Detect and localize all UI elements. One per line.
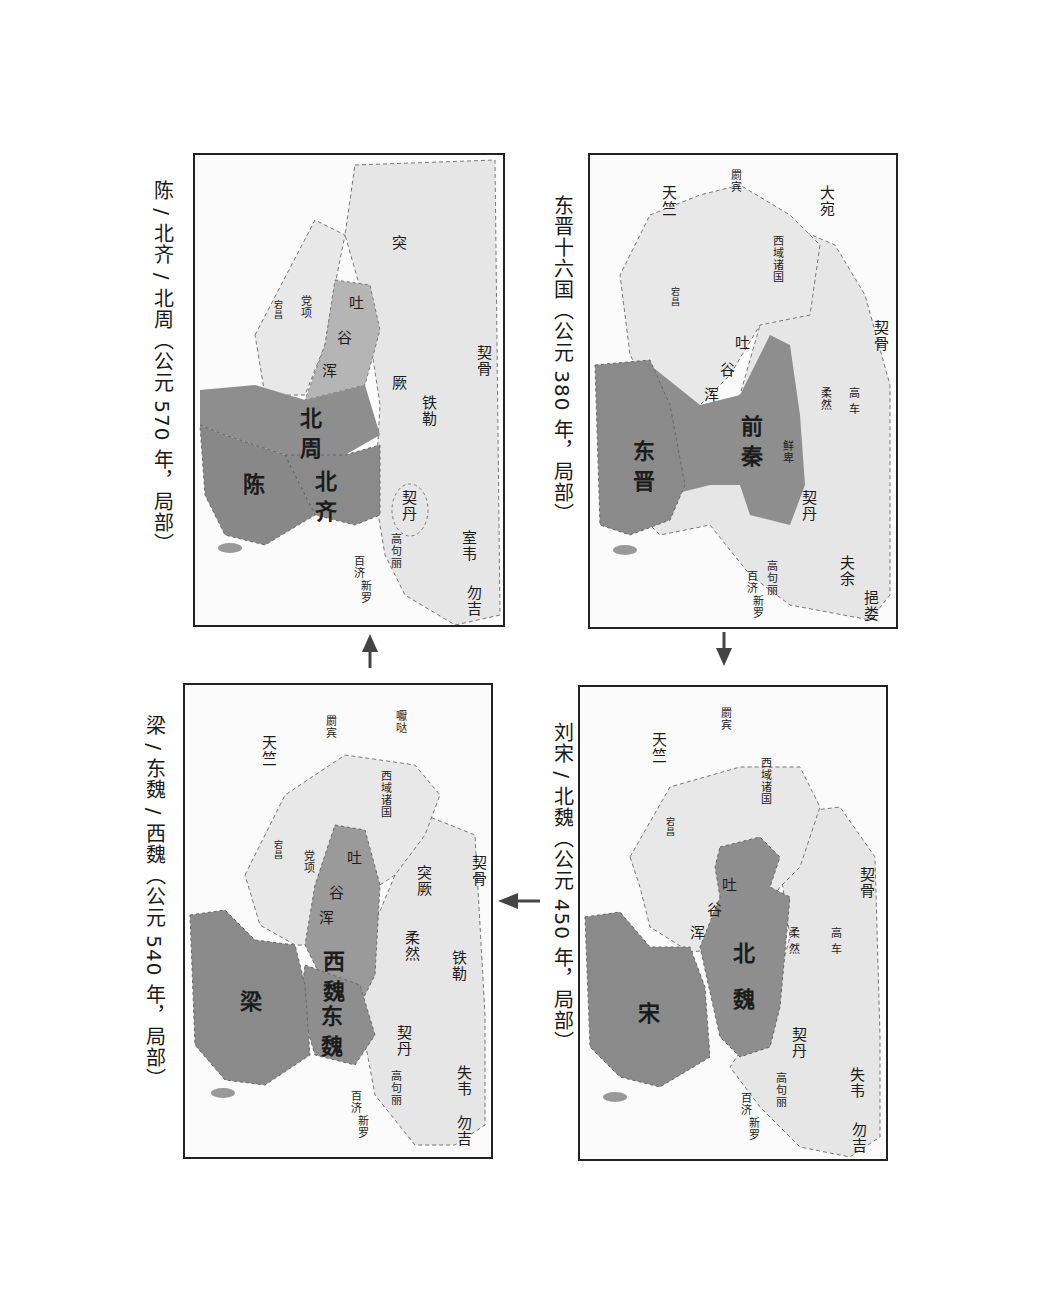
- label-rouran: 柔 然: [788, 927, 799, 956]
- label-qidan: 契丹: [800, 490, 815, 522]
- label-dangxiang: 党项: [300, 295, 311, 319]
- label-baiji: 百济: [350, 1090, 361, 1114]
- label-wuji: 勿吉: [850, 1122, 865, 1154]
- label-dawan: 大宛: [818, 185, 833, 217]
- label-tiele: 铁勒: [420, 395, 435, 427]
- label-tuyuhun-3: 浑: [317, 910, 332, 926]
- label-tianzhu: 天竺: [650, 732, 665, 764]
- label-qigu: 契骨: [872, 320, 887, 352]
- label-qigu: 契骨: [475, 345, 490, 377]
- label-tuyuhun-1: 吐: [720, 877, 735, 893]
- label-dangchang: 宕昌: [273, 840, 282, 860]
- label-tianzhu: 天竺: [660, 185, 675, 217]
- caption-570: 陈 / 北齐 / 北周（公元 570 年，局部）: [148, 180, 177, 554]
- label-qigu: 契骨: [470, 855, 485, 887]
- map-panel-540: 嚈哒 罽宾 天竺 西域诸国 党项 宕昌 吐 谷 浑 契骨 突厥 铁勒 柔然 西魏…: [183, 683, 493, 1159]
- map-shapes-450: [580, 687, 886, 1159]
- label-wuji: 勿吉: [455, 1115, 470, 1147]
- label-tujue: 突厥: [415, 865, 430, 897]
- label-jibin: 罽宾: [325, 715, 336, 739]
- label-tuyuhun-1: 吐: [733, 335, 748, 351]
- label-qianqin: 前秦: [738, 415, 760, 475]
- label-beiqi: 北齐: [312, 470, 334, 530]
- caption-540: 梁 / 东魏 / 西魏（公元 540 年，局部）: [140, 715, 169, 1089]
- label-qigu: 契骨: [858, 867, 873, 899]
- label-xiyu: 西域诸国: [760, 757, 771, 805]
- label-song: 宋: [635, 1002, 657, 1032]
- map-shapes-540: [185, 685, 491, 1157]
- island-taiwan: [218, 543, 242, 553]
- arrow-left-icon: [496, 891, 542, 911]
- label-shiwei: 失韦: [455, 1065, 470, 1097]
- label-tiele: 铁勒: [450, 950, 465, 982]
- label-gaogouli: 高句丽: [766, 560, 777, 596]
- label-tianzhu: 天竺: [260, 735, 275, 767]
- label-xinluo: 新罗: [748, 1117, 759, 1141]
- label-shiwei: 失韦: [848, 1067, 863, 1099]
- label-tuyuhun-2: 谷: [705, 902, 720, 918]
- label-shiwei: 室韦: [460, 530, 475, 562]
- arrow-up-icon: [360, 632, 380, 668]
- label-xinluo: 新罗: [752, 595, 763, 619]
- label-fuyu: 夫余: [838, 555, 853, 587]
- label-tuyuhun-2: 谷: [327, 885, 342, 901]
- island-taiwan: [603, 1092, 627, 1102]
- label-rouran: 柔然: [820, 387, 831, 411]
- label-yada: 嚈哒: [395, 710, 406, 734]
- label-yilou: 挹娄: [862, 590, 877, 622]
- island-taiwan: [613, 545, 637, 555]
- label-gaoche: 高 车: [830, 927, 841, 956]
- label-tuyuhun-1: 吐: [345, 850, 360, 866]
- label-jibin: 罽宾: [720, 707, 731, 731]
- label-dangchang: 宕昌: [665, 817, 674, 837]
- label-liang: 梁: [237, 990, 259, 1020]
- label-beiwei: 北 魏: [730, 942, 752, 1018]
- label-qidan: 契丹: [790, 1027, 805, 1059]
- label-tujue-1: 突 厥: [390, 235, 405, 450]
- label-xinluo: 新罗: [357, 1115, 368, 1139]
- label-xiyu: 西域诸国: [772, 235, 783, 283]
- label-dongwei: 东魏: [318, 1005, 340, 1065]
- label-xiyu: 西域诸国: [380, 770, 391, 818]
- label-dangchang: 宕昌: [273, 300, 282, 320]
- label-dongjin: 东晋: [630, 440, 652, 500]
- label-tuyuhun-3: 浑: [320, 363, 335, 379]
- label-tuyuhun-1: 吐: [347, 295, 362, 311]
- label-qidan: 契丹: [400, 490, 415, 522]
- map-panel-380: 大宛 罽宾 天竺 西域诸国 宕昌 吐 谷 浑 契骨 高 车 柔然 鲜卑 前秦 东…: [588, 153, 898, 629]
- label-gaoche: 高 车: [848, 387, 859, 416]
- label-dangchang: 宕昌: [670, 287, 679, 307]
- label-beizhou: 北周: [297, 407, 319, 467]
- label-chen: 陈: [240, 473, 262, 503]
- label-qidan: 契丹: [395, 1025, 410, 1057]
- label-gaogouli: 高句丽: [390, 1070, 401, 1106]
- map-panel-450: 罽宾 天竺 西域诸国 宕昌 吐 谷 浑 契骨 高 车 柔 然 北 魏 宋 契丹 …: [578, 685, 888, 1161]
- label-baiji: 百济: [353, 555, 364, 579]
- label-xianbei: 鲜卑: [782, 440, 793, 464]
- label-tuyuhun-2: 谷: [335, 330, 350, 346]
- label-tuyuhun-3: 浑: [702, 387, 717, 403]
- label-wuji: 勿吉: [465, 585, 480, 617]
- label-xiwei: 西魏: [320, 950, 342, 1010]
- label-baiji: 百济: [740, 1092, 751, 1116]
- island-taiwan: [211, 1088, 235, 1098]
- label-baiji: 百济: [746, 570, 757, 594]
- arrow-down-icon: [714, 632, 734, 668]
- label-jibin: 罽宾: [730, 169, 741, 193]
- label-xinluo: 新罗: [360, 580, 371, 604]
- caption-380: 东晋十六国（公元 380 年，局部）: [548, 195, 577, 524]
- label-tuyuhun-2: 谷: [718, 362, 733, 378]
- label-rouran: 柔然: [403, 930, 418, 962]
- label-gaogouli: 高句丽: [775, 1072, 786, 1108]
- map-panel-570: 突 厥 党项 宕昌 吐 谷 浑 契骨 铁勒 北周 北齐 陈 契丹 室韦 勿吉 高…: [193, 153, 505, 627]
- map-shapes-570: [195, 155, 503, 625]
- label-gaogouli: 高句丽: [390, 533, 401, 569]
- label-dangxiang: 党项: [303, 850, 314, 874]
- label-tuyuhun-3: 浑: [688, 925, 703, 941]
- caption-450: 刘宋 / 北魏（公元 450 年，局部）: [548, 722, 577, 1052]
